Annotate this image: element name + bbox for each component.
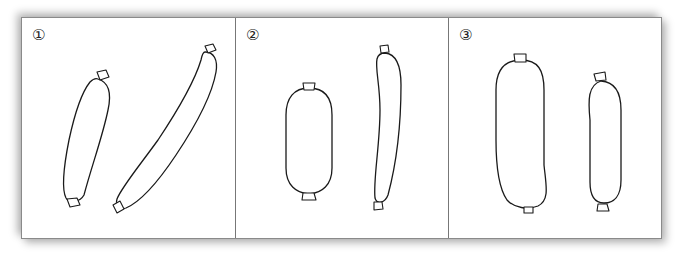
figure-frame: ① ② ③	[21, 17, 662, 239]
panel-1: ①	[22, 18, 235, 238]
panel-label-2: ②	[246, 27, 259, 43]
panel-2: ②	[235, 18, 448, 238]
panel-label-3: ③	[459, 27, 472, 43]
panel-3: ③	[448, 18, 662, 238]
panel-label-1: ①	[32, 27, 45, 43]
